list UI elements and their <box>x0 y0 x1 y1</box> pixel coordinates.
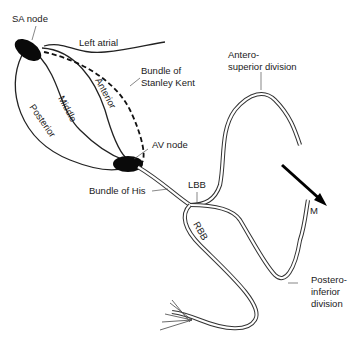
label-postero-3: division <box>311 298 343 309</box>
label-postero-1: Postero- <box>311 274 347 285</box>
kent-leader <box>130 78 140 86</box>
label-middle: Middle <box>56 94 79 124</box>
label-bundle-his: Bundle of His <box>89 185 146 196</box>
label-left-atrial: Left atrial <box>79 37 118 48</box>
label-antero-1: Antero- <box>228 49 259 60</box>
vector-m-arrow <box>282 165 322 201</box>
label-sa-node: SA node <box>12 13 48 24</box>
bundle-of-kent <box>44 52 144 165</box>
sa-node <box>11 34 45 65</box>
label-bundle-kent-2: Stanley Kent <box>141 77 195 88</box>
his-purkinje <box>138 94 308 328</box>
conduction-diagram: SA node Left atrial Bundle of Stanley Ke… <box>0 0 363 355</box>
sa-node-leader <box>32 26 36 40</box>
label-anterior: Anterior <box>93 76 118 111</box>
label-av-node: AV node <box>152 139 188 150</box>
his-leader <box>152 189 168 191</box>
label-lbb: LBB <box>188 179 206 190</box>
label-posterior: Posterior <box>27 102 58 139</box>
label-postero-2: inferior <box>311 286 340 297</box>
av-node-leader <box>134 149 148 159</box>
label-bundle-kent-1: Bundle of <box>141 65 182 76</box>
label-antero-2: superior division <box>228 61 297 72</box>
label-vector-m: M <box>310 205 318 216</box>
